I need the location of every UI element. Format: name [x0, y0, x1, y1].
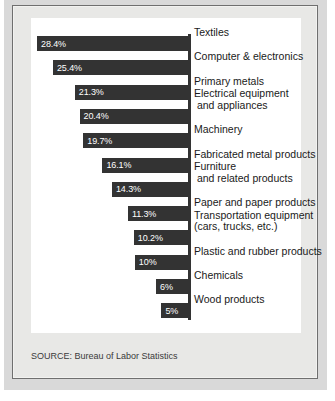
category-label: Computer & electronics: [194, 51, 303, 63]
bar: 10.2%: [134, 230, 188, 245]
bar-value-label: 28.4%: [41, 39, 66, 48]
bar-value-label: 16.1%: [106, 161, 131, 170]
category-label: Transportation equipment (cars, trucks, …: [194, 210, 313, 233]
bar: 10%: [135, 255, 188, 270]
bar: 21.3%: [75, 85, 188, 100]
bar-value-label: 5%: [165, 306, 178, 315]
category-labels-layer: TextilesComputer & electronicsPrimary me…: [194, 18, 334, 333]
bar-value-label: 11.3%: [132, 209, 156, 218]
chart-plot-panel: 28.4%25.4%21.3%20.4%19.7%16.1%14.3%11.3%…: [31, 18, 301, 333]
bar: 11.3%: [128, 206, 188, 221]
bar-value-label: 21.3%: [79, 88, 104, 97]
bar-value-label: 10%: [139, 258, 157, 267]
figure-frame: 28.4%25.4%21.3%20.4%19.7%16.1%14.3%11.3%…: [12, 5, 318, 379]
category-label: Primary metals: [194, 76, 264, 88]
bar: 20.4%: [80, 109, 188, 124]
category-label: Fabricated metal products: [194, 149, 315, 161]
bar-value-label: 14.3%: [116, 185, 141, 194]
bar: 16.1%: [102, 158, 188, 173]
bar-value-label: 19.7%: [87, 136, 112, 145]
category-label: Chemicals: [194, 270, 243, 282]
bar-value-label: 20.4%: [84, 112, 109, 121]
category-label: Textiles: [194, 27, 229, 39]
bar: 14.3%: [112, 182, 188, 197]
scanned-figure: 28.4%25.4%21.3%20.4%19.7%16.1%14.3%11.3%…: [0, 0, 335, 401]
category-label: Electrical equipment and appliances: [194, 88, 289, 111]
bar: 19.7%: [83, 133, 188, 148]
category-label: Machinery: [194, 124, 242, 136]
axis-baseline: [188, 34, 191, 320]
bar-value-label: 25.4%: [57, 63, 82, 72]
category-label: Plastic and rubber products: [194, 246, 322, 258]
bar: 28.4%: [37, 36, 188, 51]
bar: 6%: [156, 279, 188, 294]
category-label: Paper and paper products: [194, 197, 315, 209]
category-label: Furniture and related products: [194, 161, 293, 184]
bar: 5%: [161, 303, 188, 318]
bar: 25.4%: [53, 60, 188, 75]
bar-value-label: 10.2%: [138, 233, 163, 242]
bar-value-label: 6%: [160, 282, 173, 291]
source-note: SOURCE: Bureau of Labor Statistics: [31, 351, 178, 361]
category-label: Wood products: [194, 294, 264, 306]
